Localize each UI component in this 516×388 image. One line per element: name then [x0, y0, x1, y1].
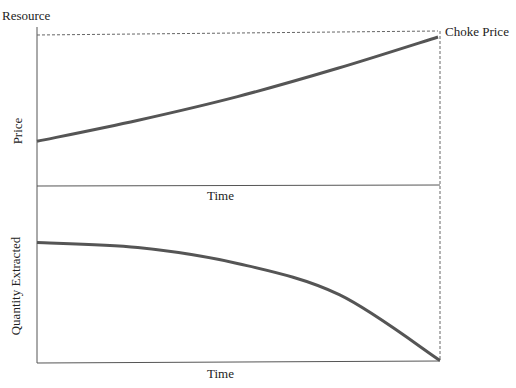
resource-label: Resource [2, 8, 50, 24]
price-axis-label: Price [10, 111, 26, 151]
price-curve [37, 37, 438, 141]
upper-x-axis [37, 185, 440, 186]
choke-price-dashed-line [37, 31, 438, 35]
time-axis-label-top: Time [207, 188, 234, 204]
resource-extraction-diagram [0, 0, 516, 388]
time-axis-label-bottom: Time [207, 366, 234, 382]
quantity-axis-label: Quantity Extracted [8, 226, 24, 346]
choke-price-label: Choke Price [445, 24, 509, 40]
quantity-curve [37, 243, 440, 361]
lower-x-axis [37, 361, 440, 363]
